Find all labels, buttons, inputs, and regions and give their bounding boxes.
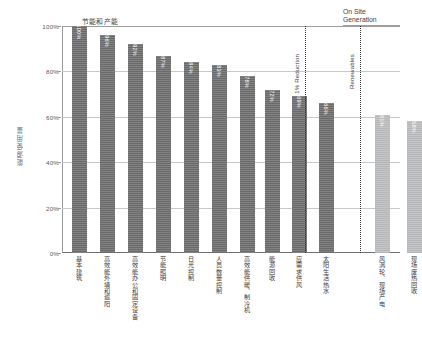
y-tick-mark-20 (58, 208, 61, 209)
x-axis-label-4: 节能照明 (159, 256, 166, 282)
y-tick-mark-0 (58, 253, 61, 254)
y-tick-20: 20% (19, 205, 59, 212)
bar-value-label-8: 72% (269, 90, 275, 102)
x-axis-label-9: 应需求供风 (295, 256, 302, 288)
group-header-line-2: Generation (343, 16, 377, 24)
bar-4: 87% (156, 56, 171, 253)
bar-value-label-11: 61% (379, 115, 385, 127)
bar-value-label-6: 83% (216, 65, 222, 77)
x-axis-labels: 基本建筑高效能外墙和遮阳高效能办公和固定设备节能照明日光控制人员数量控制高效能供… (62, 256, 400, 352)
divider-label-renewables: Renewables (349, 54, 355, 89)
x-axis-label-1: 基本建筑 (75, 256, 82, 282)
y-tick-mark-80 (58, 71, 61, 72)
bar-value-label-10: 66% (323, 103, 329, 115)
y-tick-mark-60 (58, 117, 61, 118)
bar-value-label-3: 92% (132, 44, 138, 56)
bar-value-label-2: 96% (104, 35, 110, 47)
y-tick-60: 60% (19, 114, 59, 121)
bar-5: 84% (184, 62, 199, 253)
bar-6: 83% (212, 65, 227, 253)
y-tick-0: 0% (19, 250, 59, 257)
x-axis-label-8: 能源回收 (268, 256, 275, 282)
bar-10: 66% (319, 103, 334, 253)
x-axis-label-11: 风涡轮、现场产电 (378, 256, 385, 307)
bar-value-label-12: 58% (411, 121, 417, 133)
bar-7: 78% (240, 76, 255, 253)
bar-12: 58% (407, 121, 422, 253)
x-axis-label-12: 现场废热回收 (410, 256, 417, 294)
y-tick-mark-40 (58, 162, 61, 163)
bar-8: 72% (265, 90, 280, 253)
bar-value-label-1: 100% (76, 25, 82, 40)
y-tick-100: 100% (19, 23, 59, 30)
section-title-energy-savings: 节能和产能 (82, 16, 118, 26)
x-axis-label-6: 人员数量控制 (215, 256, 222, 294)
x-axis-label-10: 太阳生活热水 (322, 256, 329, 294)
x-axis-label-5: 日光控制 (187, 256, 194, 282)
bar-value-label-7: 78% (244, 76, 250, 88)
divider-renewables (360, 26, 361, 253)
bar-2: 96% (100, 35, 115, 253)
x-axis-label-2: 高效能外墙和遮阳 (103, 256, 110, 307)
group-header-line-1: On Site (343, 8, 377, 16)
x-axis-label-3: 高效能办公和固定设备 (131, 256, 138, 320)
bar-3: 92% (128, 44, 143, 253)
bar-value-label-4: 87% (160, 56, 166, 68)
bar-1: 100% (72, 26, 87, 253)
x-axis-label-7: 高效能供暖、制冷机 (243, 256, 250, 314)
bar-value-label-5: 84% (188, 62, 194, 74)
y-tick-mark-100 (58, 26, 61, 27)
divider-1-percent-reduction (305, 26, 306, 253)
plot-area: 100%96%92%87%84%83%78%72%69%66%61%58% 1%… (62, 26, 400, 253)
bar-11: 61% (375, 115, 390, 253)
group-header-on-site-generation: On Site Generation (343, 8, 377, 24)
y-tick-80: 80% (19, 68, 59, 75)
y-tick-40: 40% (19, 159, 59, 166)
bar-value-label-9: 69% (296, 97, 302, 109)
divider-label-1-percent-reduction: 1% Reduction (294, 54, 300, 94)
